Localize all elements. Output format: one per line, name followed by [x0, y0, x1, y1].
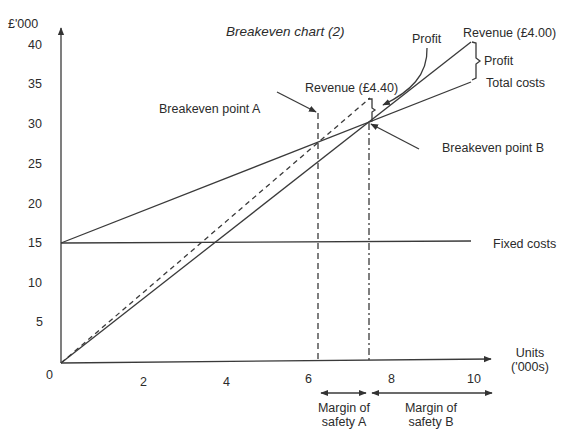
profit-brace-right	[472, 42, 480, 80]
x-tick-6: 6	[305, 372, 312, 386]
revenue-440-label: Revenue (£4.40)	[305, 81, 398, 95]
x-axis-unit-label: Units ('000s)	[508, 346, 552, 374]
revenue-400-line	[61, 42, 471, 363]
breakeven-chart	[0, 0, 567, 439]
x-tick-2: 2	[140, 375, 147, 389]
y-tick-20: 20	[28, 197, 42, 211]
fixed-costs-line	[61, 241, 471, 243]
breakeven-a-pointer	[277, 92, 316, 112]
profit-curve-pointer	[383, 48, 427, 105]
y-axis-unit-label: £'000	[8, 17, 38, 31]
fixed-costs-label: Fixed costs	[493, 237, 556, 251]
y-tick-25: 25	[28, 157, 42, 171]
margin-a-line2: safety A	[316, 415, 372, 429]
total-costs-line	[61, 82, 471, 243]
margin-b-line2: safety B	[403, 415, 459, 429]
y-tick-30: 30	[28, 117, 42, 131]
x-axis	[61, 359, 491, 363]
x-tick-10: 10	[467, 372, 481, 386]
breakeven-b-label: Breakeven point B	[442, 141, 544, 155]
y-tick-5: 5	[36, 315, 43, 329]
margin-of-safety-b-label: Margin of safety B	[403, 401, 459, 429]
margin-b-line1: Margin of	[403, 401, 459, 415]
x-axis-unit-line2: ('000s)	[508, 360, 552, 374]
margin-of-safety-a-label: Margin of safety A	[316, 401, 372, 429]
x-tick-8: 8	[388, 372, 395, 386]
breakeven-b-pointer	[371, 124, 419, 149]
origin-label: 0	[46, 368, 53, 382]
margin-a-line1: Margin of	[316, 401, 372, 415]
x-axis-unit-line1: Units	[508, 346, 552, 360]
x-tick-4: 4	[223, 375, 230, 389]
y-tick-15: 15	[28, 236, 42, 250]
profit-brace-label: Profit	[484, 54, 513, 68]
y-tick-35: 35	[28, 77, 42, 91]
total-costs-label: Total costs	[486, 76, 545, 90]
revenue-440-line	[61, 98, 370, 363]
y-tick-40: 40	[28, 38, 42, 52]
y-tick-10: 10	[28, 276, 42, 290]
profit-curve-label: Profit	[412, 32, 441, 46]
revenue-400-label: Revenue (£4.00)	[463, 26, 556, 40]
breakeven-a-label: Breakeven point A	[159, 102, 260, 116]
chart-title: Breakeven chart (2)	[226, 25, 345, 39]
